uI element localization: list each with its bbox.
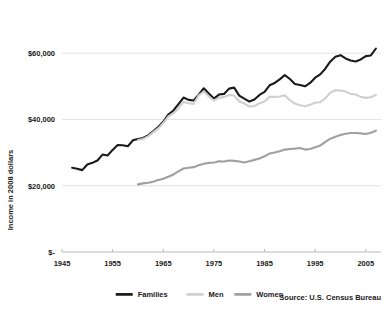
- y-axis-title: Income in 2008 dollars: [6, 150, 15, 230]
- series-line-women: [138, 131, 376, 185]
- income-line-chart: $-$20,000$40,000$60,000 1945195519651975…: [0, 0, 390, 319]
- x-tick-label: 1945: [54, 259, 71, 268]
- legend-label-men: Men: [209, 290, 224, 299]
- x-tick-label: 2005: [357, 259, 374, 268]
- y-tick-label: $60,000: [28, 49, 55, 58]
- y-tick-label: $-: [48, 248, 55, 257]
- chart-legend: FamiliesMenWomen: [116, 290, 284, 299]
- x-tick-label: 1995: [307, 259, 324, 268]
- x-tick-label: 1965: [155, 259, 172, 268]
- y-tick-label: $40,000: [28, 115, 55, 124]
- chart-canvas: $-$20,000$40,000$60,000 1945195519651975…: [0, 0, 390, 319]
- x-tick-label: 1975: [206, 259, 223, 268]
- y-axis-tick-labels: $-$20,000$40,000$60,000: [28, 49, 56, 257]
- legend-label-families: Families: [138, 290, 168, 299]
- x-tick-label: 1955: [104, 259, 121, 268]
- data-series-group: [72, 49, 376, 185]
- x-tick-label: 1985: [256, 259, 273, 268]
- y-tick-label: $20,000: [28, 182, 55, 191]
- source-attribution: Source: U.S. Census Bureau: [279, 293, 381, 302]
- series-line-families: [72, 49, 376, 171]
